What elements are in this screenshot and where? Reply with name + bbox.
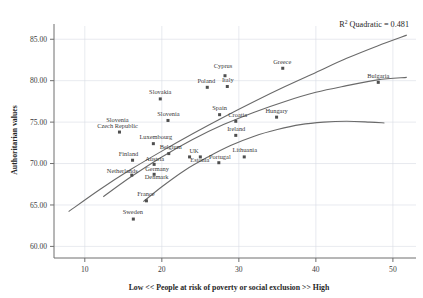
- data-point: [145, 199, 148, 202]
- y-axis-tick-label: 60.00: [30, 242, 47, 251]
- data-point: [234, 120, 237, 123]
- data-point-label: Hungary: [265, 107, 288, 114]
- r2-body: Quadratic = 0.481: [348, 20, 409, 29]
- y-axis-tick-label: 70.00: [30, 159, 47, 168]
- scatter-plot-figure: 102030405060.0065.0070.0075.0080.0085.00…: [0, 0, 423, 298]
- data-point-label: Portugal: [209, 153, 231, 160]
- x-axis-tick-label: 30: [235, 265, 243, 274]
- data-point-label: Finland: [119, 150, 139, 157]
- data-point: [243, 155, 246, 158]
- data-point: [167, 152, 170, 155]
- data-point-label: Slovakia: [149, 88, 172, 95]
- data-point-label: Croatia: [228, 111, 247, 118]
- x-axis-tick-label: 50: [389, 265, 397, 274]
- data-point: [218, 113, 221, 116]
- point-labels-layer: Czech RepublicSloveniaSlovakiaSloveniaPo…: [97, 58, 389, 216]
- x-axis-tick-label: 10: [81, 265, 89, 274]
- data-point: [152, 142, 155, 145]
- data-point: [118, 131, 121, 134]
- data-point: [377, 81, 380, 84]
- data-point-label: Slovenia: [106, 116, 129, 123]
- data-point-label: Cyprus: [214, 62, 233, 69]
- y-axis-title: Authoritarian values: [10, 105, 19, 175]
- data-point: [132, 218, 135, 221]
- data-point-label: UK: [189, 147, 199, 154]
- x-axis-tick-label: 20: [158, 265, 166, 274]
- data-point: [166, 119, 169, 122]
- data-point-label: Slovenia: [157, 110, 180, 117]
- data-point-label: Sweden: [123, 208, 144, 215]
- data-point-label: France: [137, 190, 155, 197]
- data-point-label: Estonia: [190, 156, 209, 163]
- data-point: [226, 85, 229, 88]
- data-point-label: Bulgaria: [367, 72, 389, 79]
- data-point: [206, 86, 209, 89]
- data-point-label: Spain: [212, 104, 227, 111]
- data-point-label: Italy: [222, 76, 235, 83]
- y-axis-tick-label: 65.00: [30, 201, 47, 210]
- r-squared-annotation: R2 Quadratic = 0.481: [339, 19, 409, 29]
- data-point-label: Austria: [145, 155, 164, 162]
- data-point-label: Ireland: [227, 125, 246, 132]
- regression-curve-lower-fit: [143, 121, 384, 201]
- data-point: [275, 116, 278, 119]
- axes-layer: [50, 24, 416, 262]
- data-point-label: Netherlands: [107, 167, 138, 174]
- data-point: [217, 161, 220, 164]
- data-point-label: Greece: [273, 58, 291, 65]
- chart-canvas: 102030405060.0065.0070.0075.0080.0085.00…: [0, 0, 423, 298]
- y-axis-tick-label: 75.00: [30, 118, 47, 127]
- x-axis-tick-label: 40: [312, 265, 320, 274]
- data-point: [281, 67, 284, 70]
- data-point: [159, 97, 162, 100]
- data-point: [234, 134, 237, 137]
- data-point-label: Czech Republic: [97, 122, 138, 129]
- data-point-label: Poland: [197, 77, 216, 84]
- data-point-label: Denmark: [145, 173, 170, 180]
- data-point-label: Luxembourg: [139, 133, 173, 140]
- data-point-label: Lithuania: [232, 146, 257, 153]
- y-axis-tick-label: 85.00: [30, 35, 47, 44]
- data-point-label: Germany: [145, 165, 170, 172]
- gridlines-layer: [54, 26, 416, 258]
- y-axis-tick-label: 80.00: [30, 76, 47, 85]
- x-axis-title: Low << People at risk of poverty or soci…: [129, 283, 330, 292]
- data-point-label: Belgium: [160, 143, 182, 150]
- data-point: [131, 159, 134, 162]
